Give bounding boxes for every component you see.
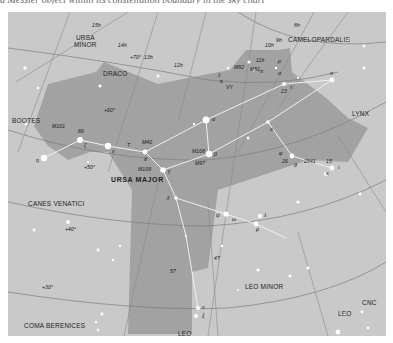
star-kappa: κ <box>326 170 329 176</box>
chart-graphics <box>8 12 386 336</box>
ra-label-12h: 12h <box>174 62 183 68</box>
star-eta: η <box>36 157 39 163</box>
label-leo-east: LEO <box>338 310 352 317</box>
object-vy: VY <box>226 84 233 90</box>
object-26: 26 <box>282 158 288 164</box>
object-m108: M108 <box>192 148 205 154</box>
dec-label-70: +70° <box>130 54 141 60</box>
star-omega: ω <box>232 216 236 222</box>
star-xi: ξ <box>202 312 205 318</box>
label-bootes: BOOTES <box>12 117 40 124</box>
label-ursa-major: URSA MAJOR <box>111 176 164 183</box>
star-rho: ρ <box>278 58 281 64</box>
star-tau: τ <box>290 84 292 90</box>
object-15: 15 <box>326 158 332 164</box>
star-chi: χ <box>167 194 170 200</box>
label-lynx: LYNX <box>352 110 369 117</box>
ra-label-13h: 13h <box>144 54 153 60</box>
star-chart: URSAMINOR DRACO CAMELOPARDALIS BOOTES LY… <box>8 12 386 336</box>
dec-label-40: +40° <box>65 226 76 232</box>
star-delta: δ <box>144 156 147 162</box>
figure-caption: a Messier object within its constellatio… <box>0 0 393 4</box>
star-nu: ν <box>202 304 205 310</box>
star-mu: μ <box>256 226 259 232</box>
ra-label-11h: 11h <box>256 57 265 63</box>
ra-label-14h: 14h <box>118 42 127 48</box>
object-m82: M82 <box>234 64 244 70</box>
label-leo-minor: LEO MINOR <box>245 283 283 290</box>
label-camelopardalis: CAMELOPARDALIS <box>288 36 350 43</box>
object-86: 86 <box>78 128 84 134</box>
label-cancer: CNC <box>362 299 377 306</box>
dec-label-50: +50° <box>84 164 95 170</box>
label-coma-berenices: COMA BERENICES <box>24 322 85 329</box>
star-epsilon: ε <box>112 148 115 154</box>
star-lambda: λ <box>264 212 267 218</box>
star-gamma: γ <box>168 168 171 174</box>
label-leo-south: LEO <box>178 330 192 336</box>
label-ursa-minor: URSAMINOR <box>74 34 97 48</box>
object-47: 47 <box>214 255 220 261</box>
star-upsilon: υ <box>270 126 273 132</box>
star-sigma: σ <box>278 70 281 76</box>
ra-label-15h: 15h <box>92 22 101 28</box>
ra-label-9h: 9h <box>276 37 282 43</box>
ra-label-10h: 10h <box>265 42 274 48</box>
object-m101: M101 <box>52 123 65 129</box>
star-beta: β <box>214 151 217 157</box>
star-kappa-dra: κ <box>220 78 223 84</box>
label-draco: DRACO <box>103 70 127 77</box>
ra-label-8h: 8h <box>294 22 300 28</box>
star-omicron: ο <box>330 70 333 76</box>
star-alpha: α <box>212 116 215 122</box>
star-pi: π <box>260 68 263 74</box>
dec-label-60: +60° <box>104 107 115 113</box>
star-phi: φ <box>279 150 283 156</box>
dec-label-30: +30° <box>42 284 53 290</box>
star-iota: ι <box>338 164 340 170</box>
star-psi: ψ <box>216 212 220 218</box>
label-canes-venatici: CANES VENATICI <box>28 200 85 207</box>
object-57: 57 <box>170 268 176 274</box>
object-m109: M109 <box>138 166 151 172</box>
star-theta: θ <box>294 162 297 168</box>
object-m97: M97 <box>195 160 205 166</box>
object-t: T <box>127 142 130 148</box>
star-zeta: ζ <box>84 142 87 148</box>
object-23: 23 <box>281 88 287 94</box>
object-m40: M40 <box>142 139 152 145</box>
object-m81: M81 <box>250 66 260 72</box>
object-2841: 2841 <box>304 158 316 164</box>
